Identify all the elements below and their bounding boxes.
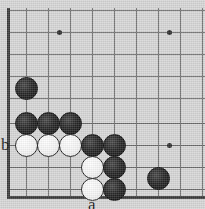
hoshi-lower-right [167, 143, 172, 148]
white-stone[interactable] [15, 134, 38, 157]
grid-line-horizontal-1 [7, 32, 205, 33]
label-a: a [88, 196, 96, 209]
grid-line-vertical-5 [136, 8, 137, 196]
black-stone[interactable] [37, 112, 60, 135]
grid-line-vertical-1 [48, 8, 49, 196]
go-board-diagram: ab [0, 0, 205, 209]
grid-line-vertical-7 [180, 8, 181, 196]
hoshi-upper-left [57, 30, 62, 35]
grid-line-horizontal-4 [7, 98, 205, 99]
grid-line-horizontal-3 [7, 76, 205, 77]
grid-line-horizontal-0 [7, 10, 205, 11]
black-stone[interactable] [103, 178, 126, 201]
black-stone[interactable] [59, 112, 82, 135]
black-stone[interactable] [15, 112, 38, 135]
grid-line-horizontal-2 [7, 54, 205, 55]
black-stone[interactable] [103, 134, 126, 157]
black-stone[interactable] [81, 134, 104, 157]
grid-line-vertical-8 [202, 8, 203, 196]
label-b: b [1, 136, 10, 153]
grid-line-vertical-2 [70, 8, 71, 196]
black-stone[interactable] [147, 167, 170, 190]
white-stone[interactable] [37, 134, 60, 157]
white-stone[interactable] [59, 134, 82, 157]
grid-line-vertical-0 [26, 8, 27, 196]
board-border-left [7, 8, 10, 199]
black-stone[interactable] [103, 156, 126, 179]
hoshi-upper-right [167, 30, 172, 35]
black-stone[interactable] [15, 77, 38, 100]
white-stone[interactable] [81, 156, 104, 179]
